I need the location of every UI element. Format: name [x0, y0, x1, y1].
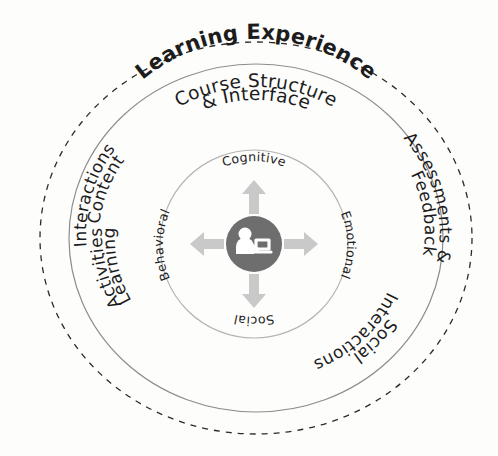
framework-canvas: Learning Experience Course Structure & I…: [0, 0, 498, 456]
arrow-up-cognitive-icon: [242, 180, 266, 214]
dimension-label-emotional: Emotional: [338, 209, 359, 281]
arrow-left-behavioral-icon: [190, 232, 224, 256]
dimension-label-social: Social: [232, 312, 275, 329]
dimension-label-behavioral: Behavioral: [151, 206, 173, 283]
hub-background-circle: [226, 216, 282, 272]
dimension-label-cognitive: Cognitive: [220, 149, 288, 169]
learning-experience-framework-diagram: Learning Experience Course Structure & I…: [0, 0, 498, 456]
hub-group: [226, 216, 282, 272]
arrow-right-emotional-icon: [284, 232, 318, 256]
arrow-down-social-icon: [242, 274, 266, 308]
